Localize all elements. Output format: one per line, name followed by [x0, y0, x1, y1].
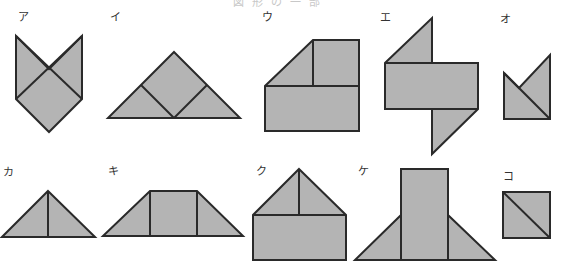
figure-ke-shape	[355, 169, 495, 260]
figures-canvas	[0, 0, 561, 265]
figure-o-shape	[504, 55, 550, 119]
figure-ki-shape	[103, 191, 243, 236]
figure-ka-shape	[2, 191, 95, 237]
figure-i-shape	[108, 52, 240, 118]
figure-ku-shape	[253, 169, 346, 260]
figure-u-shape	[265, 40, 359, 131]
figure-ko-shape	[503, 192, 550, 238]
figure-a-shape	[16, 36, 82, 132]
figure-e-shape	[385, 18, 478, 154]
